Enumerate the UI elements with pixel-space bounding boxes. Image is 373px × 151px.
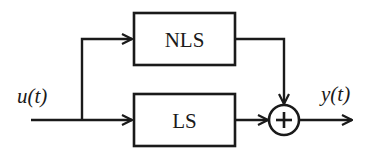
ls-label: LS <box>172 109 197 133</box>
ls-block: LS <box>134 94 235 146</box>
nls-block: NLS <box>134 13 235 65</box>
input-signal-label: u(t) <box>17 84 47 108</box>
nls-to-sum-line <box>235 39 284 104</box>
branch-to-nls <box>82 39 132 120</box>
nls-label: NLS <box>165 28 205 52</box>
output-signal-label: y(t) <box>319 82 350 106</box>
block-diagram: NLS LS u(t) y(t) <box>0 0 373 151</box>
summing-junction <box>269 105 299 135</box>
